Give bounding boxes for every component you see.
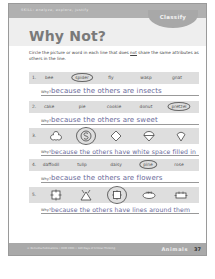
option-spider-circled[interactable]: spider — [75, 75, 89, 80]
question-row-3: 3. — [29, 128, 199, 144]
option-tulip[interactable]: tulip — [77, 162, 87, 167]
option-pine-circled[interactable]: pine — [143, 162, 153, 167]
option-pretzel-circled[interactable]: pretzel — [171, 104, 186, 109]
option-cake[interactable]: cake — [44, 104, 54, 109]
footer-category: Animals — [161, 246, 188, 252]
option-fly[interactable]: fly — [108, 75, 113, 80]
option-cookie[interactable]: cookie — [107, 104, 121, 109]
answer-text: because the others are sweet — [51, 116, 158, 124]
square-in-circle-icon[interactable] — [110, 188, 124, 202]
answer-text: because the others have white space fill… — [51, 148, 196, 155]
circle-s-icon[interactable] — [79, 129, 93, 143]
answer-text: because the others are insects — [51, 87, 162, 95]
option-rose[interactable]: rose — [174, 162, 183, 167]
pentagon-outline-icon[interactable] — [174, 129, 188, 143]
option-daisy[interactable]: daisy — [110, 162, 122, 167]
skill-line: SKILL: analyze, explore, justify — [21, 8, 89, 12]
why-answer-2[interactable]: Why? because the others are sweet — [41, 115, 199, 125]
oval-ticks-icon[interactable] — [142, 188, 156, 202]
why-answer-1[interactable]: Why? because the others are insects — [41, 86, 199, 96]
square-ticks-icon[interactable] — [49, 188, 63, 202]
worksheet-page: SKILL: analyze, explore, justify Classif… — [8, 3, 207, 256]
copyright-text: © Remedia Publications • REM 2003 • 180 … — [27, 247, 115, 250]
option-gnat[interactable]: gnat — [172, 75, 182, 80]
circle-divided-icon[interactable] — [142, 129, 156, 143]
answer-text: because the others have lines around the… — [51, 206, 190, 213]
category-tab-label: Classify — [148, 14, 198, 20]
question-row-5: 5. — [29, 187, 199, 203]
page-title: Why Not? — [29, 28, 106, 44]
rectangle-ticks-icon[interactable] — [174, 188, 188, 202]
diamond-outline-icon[interactable] — [109, 129, 123, 143]
question-row-2: 2. cake pie cookie donut pretzel — [29, 101, 199, 113]
why-answer-4[interactable]: Why? because the others are flowers — [41, 173, 199, 183]
option-pie[interactable]: pie — [79, 104, 86, 109]
why-answer-5[interactable]: Why? because the others have lines aroun… — [41, 204, 199, 214]
option-wasp[interactable]: wasp — [140, 75, 151, 80]
emphasis-not: not — [130, 50, 137, 55]
question-row-1: 1. bee spider fly wasp gnat — [29, 72, 199, 84]
option-daffodil[interactable]: daffodil — [43, 162, 59, 167]
clover-outline-icon[interactable] — [49, 129, 63, 143]
triangle-ticks-icon[interactable] — [79, 188, 93, 202]
page-number: 37 — [194, 246, 201, 252]
footer-bar: © Remedia Publications • REM 2003 • 180 … — [9, 243, 206, 255]
why-answer-3[interactable]: Why? because the others have white space… — [41, 146, 199, 156]
option-donut[interactable]: donut — [140, 104, 153, 109]
answer-text: because the others are flowers — [51, 174, 163, 182]
instructions: Circle the picture or word in each line … — [29, 50, 199, 62]
option-bee[interactable]: bee — [45, 75, 53, 80]
question-row-4: 4. daffodil tulip daisy pine rose — [29, 159, 199, 171]
